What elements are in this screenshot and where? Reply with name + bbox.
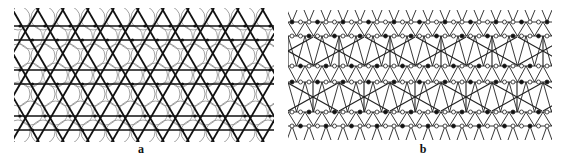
panel-a-lattice	[14, 8, 274, 142]
panel-a-label: a	[131, 142, 151, 157]
panel-b-network	[288, 8, 552, 142]
lattice-a-figure	[14, 8, 274, 142]
network-b-figure	[288, 8, 552, 142]
panel-b-label: b	[413, 142, 433, 157]
